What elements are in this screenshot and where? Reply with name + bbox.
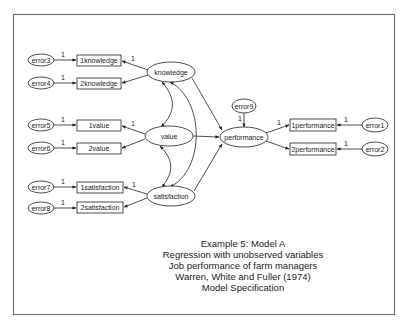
error3-label: error3	[32, 57, 51, 64]
1value-node[interactable]: 1value	[77, 120, 121, 131]
2knowledge-node[interactable]: 2knowledge	[77, 78, 121, 89]
caption-line-2: Regression with unobserved variables	[163, 249, 324, 260]
error4-node[interactable]: error4	[28, 77, 54, 89]
caption-line-3: Job performance of farm managers	[169, 260, 318, 271]
1performance-label: 1performance	[291, 122, 334, 130]
path-label-satisfaction: 1	[132, 181, 136, 188]
error4-label: error4	[32, 80, 51, 87]
error6-node[interactable]: error6	[28, 142, 54, 154]
caption-line-1: Example 5: Model A	[201, 238, 286, 249]
1performance-node[interactable]: 1performance	[290, 119, 336, 131]
satisfaction-label: satisfaction	[153, 193, 188, 200]
path-label-error4: 1	[61, 74, 65, 81]
2value-node[interactable]: 2value	[77, 143, 121, 154]
error5-label: error5	[32, 122, 51, 129]
2performance-label: 2performance	[291, 146, 334, 154]
error1-label: error1	[366, 122, 385, 129]
error9-node[interactable]: error9	[232, 99, 256, 113]
caption-line-5: Model Specification	[202, 282, 284, 293]
path-label-error5: 1	[61, 116, 65, 123]
error1-node[interactable]: error1	[362, 118, 388, 132]
2performance-node[interactable]: 2performance	[290, 143, 336, 155]
path-label-error2: 1	[344, 140, 348, 147]
error8-label: error8	[32, 205, 51, 212]
path-label-value: 1	[131, 120, 135, 127]
2value-label: 2value	[89, 145, 110, 152]
error7-node[interactable]: error7	[28, 181, 54, 193]
1value-label: 1value	[89, 122, 110, 129]
value-label: value	[161, 133, 178, 140]
knowledge-label: knowledge	[154, 69, 188, 77]
satisfaction-node[interactable]: satisfaction	[147, 186, 195, 206]
path-label-knowledge: 1	[131, 55, 135, 62]
path-label-error6: 1	[61, 139, 65, 146]
2satisfaction-label: 2satisfaction	[81, 204, 120, 211]
path-label-error7: 1	[61, 178, 65, 185]
path-label-performance: 1	[277, 119, 281, 126]
path-label-error8: 1	[61, 199, 65, 206]
error2-label: error2	[366, 146, 385, 153]
sem-diagram: 1 1 1 1 1 1 1 1 1 1 1 1 1 error3 error4 …	[0, 0, 404, 324]
error9-label: error9	[235, 103, 254, 110]
error6-label: error6	[32, 145, 51, 152]
performance-node[interactable]: performance	[220, 127, 268, 147]
1satisfaction-node[interactable]: 1satisfaction	[77, 182, 123, 193]
2satisfaction-node[interactable]: 2satisfaction	[77, 202, 123, 213]
1knowledge-node[interactable]: 1knowledge	[77, 55, 121, 66]
path-label-error1: 1	[344, 116, 348, 123]
error8-node[interactable]: error8	[28, 202, 54, 214]
1satisfaction-label: 1satisfaction	[81, 184, 120, 191]
1knowledge-label: 1knowledge	[80, 57, 117, 65]
error7-label: error7	[32, 184, 51, 191]
performance-label: performance	[224, 134, 263, 142]
path-label-error3: 1	[61, 51, 65, 58]
value-node[interactable]: value	[145, 126, 193, 146]
2knowledge-label: 2knowledge	[80, 80, 117, 88]
caption-line-4: Warren, White and Fuller (1974)	[175, 271, 310, 282]
error5-node[interactable]: error5	[28, 119, 54, 131]
error2-node[interactable]: error2	[362, 142, 388, 156]
error3-node[interactable]: error3	[28, 54, 54, 66]
path-label-error9: 1	[238, 115, 242, 122]
knowledge-node[interactable]: knowledge	[147, 62, 195, 82]
